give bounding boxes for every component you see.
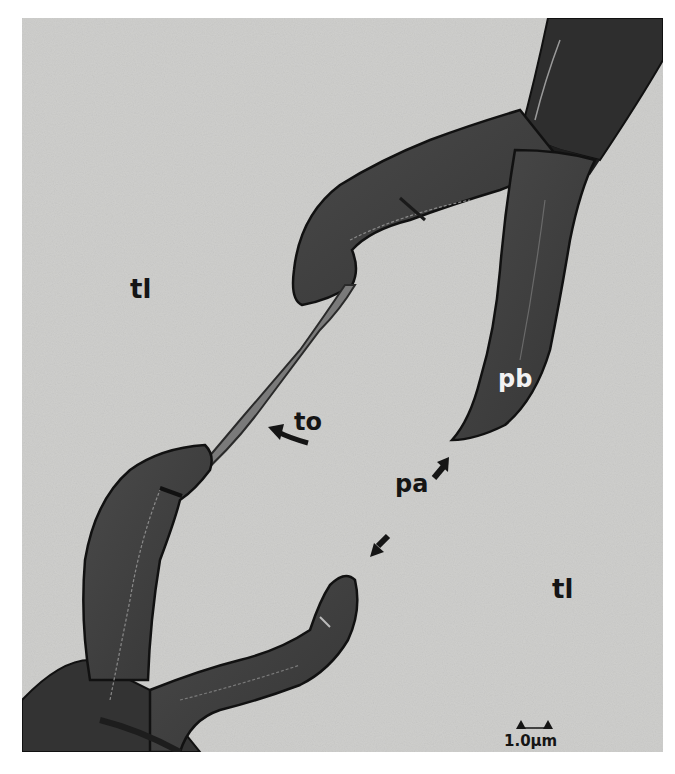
- label-tl-upper: tl: [130, 274, 151, 304]
- scale-bar-label: 1.0μm: [504, 732, 557, 750]
- label-pa: pa: [395, 470, 428, 498]
- label-tl-lower: tl: [552, 574, 573, 604]
- micrograph: tl tl pb to pa 1.0μm: [0, 0, 675, 774]
- label-pb: pb: [498, 365, 532, 393]
- label-to: to: [294, 408, 322, 436]
